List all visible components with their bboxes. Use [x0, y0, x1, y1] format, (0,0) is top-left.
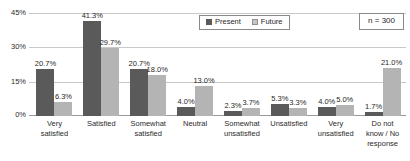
bar-rect [224, 111, 242, 116]
bar-rect [130, 69, 148, 116]
bar-value-label: 18.0% [147, 66, 168, 74]
bar-value-label: 21.0% [381, 59, 402, 67]
bar-present[interactable]: 41.3% [83, 13, 101, 116]
bar-value-label: 1.7% [365, 103, 382, 111]
x-axis-label: Somewhat unsatisfied [219, 119, 266, 149]
x-axis-label: Unsatisfied [265, 119, 312, 149]
x-axis-label: Satisfied [78, 119, 125, 149]
chart-legend: Present Future [199, 15, 290, 30]
legend-swatch-present-icon [206, 19, 212, 25]
y-axis-tick-15: 15% [0, 78, 26, 86]
bar-value-label: 3.3% [289, 99, 306, 107]
legend-item-present[interactable]: Present [206, 18, 241, 26]
bar-rect [271, 104, 289, 116]
y-axis-tick-30: 30% [0, 44, 26, 52]
x-axis-label: Do not know / No response [359, 119, 406, 149]
bar-value-label: 6.3% [55, 93, 72, 101]
bar-rect [195, 86, 213, 116]
bar-present[interactable]: 20.7% [36, 13, 54, 116]
bar-present[interactable]: 4.0% [177, 13, 195, 116]
x-axis-label: Very satisfied [31, 119, 78, 149]
bar-value-label: 20.7% [35, 60, 56, 68]
legend-item-future[interactable]: Future [252, 18, 283, 26]
bar-rect [336, 105, 354, 116]
x-axis-label: Neutral [172, 119, 219, 149]
legend-swatch-future-icon [252, 19, 258, 25]
bar-pair: 20.7%18.0% [125, 13, 172, 116]
bar-value-label: 2.3% [224, 102, 241, 110]
legend-label-present: Present [215, 18, 241, 26]
bar-value-label: 3.7% [242, 99, 259, 107]
bar-future[interactable]: 5.0% [336, 13, 354, 116]
bar-value-label: 5.3% [271, 95, 288, 103]
bar-rect [289, 108, 307, 116]
bar-value-label: 41.3% [82, 12, 103, 20]
bar-rect [177, 107, 195, 116]
bar-rect [101, 48, 119, 116]
bar-rect [383, 68, 401, 116]
bar-group: 4.0%5.0% [312, 13, 359, 116]
bar-chart: 45% 30% 15% 0% 20.7%6.3%41.3%29.7%20.7%1… [0, 0, 410, 161]
bar-value-label: 4.0% [318, 98, 335, 106]
bar-present[interactable]: 4.0% [318, 13, 336, 116]
bar-rect [83, 21, 101, 116]
sample-size-badge: n = 300 [359, 13, 404, 30]
bar-group: 20.7%6.3% [31, 13, 78, 116]
y-axis-tick-45: 45% [0, 9, 26, 17]
bar-value-label: 4.0% [178, 98, 195, 106]
legend-label-future: Future [261, 18, 283, 26]
bar-future[interactable]: 18.0% [148, 13, 166, 116]
bar-present[interactable]: 20.7% [130, 13, 148, 116]
bar-group: 20.7%18.0% [125, 13, 172, 116]
bar-pair: 4.0%5.0% [312, 13, 359, 116]
bar-rect [36, 69, 54, 116]
bar-future[interactable]: 6.3% [54, 13, 72, 116]
bar-pair: 41.3%29.7% [78, 13, 125, 116]
y-axis-tick-0: 0% [0, 111, 26, 119]
bar-future[interactable]: 3.3% [289, 13, 307, 116]
x-axis-label: Somewhat satisfied [125, 119, 172, 149]
bar-group: 41.3%29.7% [78, 13, 125, 116]
bar-value-label: 29.7% [100, 39, 121, 47]
x-axis-labels: Very satisfiedSatisfiedSomewhat satisfie… [31, 119, 406, 149]
bar-rect [148, 75, 166, 116]
bar-rect [318, 107, 336, 116]
bar-value-label: 5.0% [336, 96, 353, 104]
bar-future[interactable]: 29.7% [101, 13, 119, 116]
bar-rect [365, 112, 383, 116]
bar-rect [54, 102, 72, 116]
bar-pair: 20.7%6.3% [31, 13, 78, 116]
x-axis-label: Very unsatisfied [312, 119, 359, 149]
bar-value-label: 13.0% [193, 77, 214, 85]
bar-rect [242, 108, 260, 116]
